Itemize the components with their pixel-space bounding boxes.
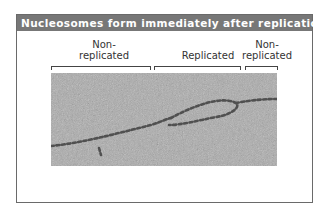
micrograph-image xyxy=(51,73,277,166)
label-nonreplicated-left: Non- replicated xyxy=(69,39,139,61)
label-replicated: Replicated xyxy=(173,50,243,61)
label-line: Replicated xyxy=(173,50,243,61)
label-line: replicated xyxy=(69,50,139,61)
bracket-nonreplicated-left xyxy=(51,66,151,70)
electron-micrograph xyxy=(51,73,277,166)
figure-frame: Nucleosomes form immediately after repli… xyxy=(16,14,313,203)
label-line: Non- xyxy=(239,39,295,50)
figure-title: Nucleosomes form immediately after repli… xyxy=(17,15,312,31)
bracket-replicated xyxy=(154,66,241,70)
bracket-nonreplicated-right xyxy=(245,66,278,70)
label-line: replicated xyxy=(239,50,295,61)
label-line: Non- xyxy=(69,39,139,50)
label-nonreplicated-right: Non- replicated xyxy=(239,39,295,61)
